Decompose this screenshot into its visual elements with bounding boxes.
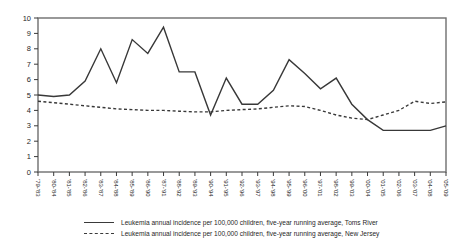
y-tick-label: 8 — [27, 44, 31, 53]
x-axis: '79-'83'80-'84'81-'85'82-'86'83-'87'84-'… — [35, 172, 449, 197]
x-tick-label: '88-'92 — [176, 179, 182, 197]
y-tick-label: 4 — [27, 106, 31, 115]
y-axis: 012345678910 — [23, 14, 38, 177]
legend-item-toms-river: Leukemia annual incidence per 100,000 ch… — [84, 218, 379, 227]
x-tick-label: '92-'96 — [239, 179, 245, 197]
series-toms-river — [38, 27, 446, 130]
legend-label-new-jersey: Leukemia annual incidence per 100,000 ch… — [121, 229, 379, 238]
y-tick-label: 10 — [23, 14, 31, 23]
x-tick-label: '05-'09 — [443, 179, 449, 197]
x-tick-label: '99-'03 — [349, 179, 355, 197]
x-tick-label: '95-'99 — [286, 179, 292, 197]
y-tick-label: 5 — [27, 91, 31, 100]
dashed-line-icon — [84, 233, 114, 234]
x-tick-label: '81-'85 — [66, 179, 72, 197]
x-tick-label: '97-'01 — [317, 179, 323, 197]
y-tick-label: 6 — [27, 75, 31, 84]
plot-frame — [38, 18, 446, 172]
legend-item-new-jersey: Leukemia annual incidence per 100,000 ch… — [84, 229, 379, 238]
x-tick-label: '85-'89 — [129, 179, 135, 197]
leukemia-incidence-figure: 012345678910'79-'83'80-'84'81-'85'82-'86… — [0, 0, 471, 244]
x-tick-label: '82-'86 — [82, 179, 88, 197]
x-tick-label: '84-'88 — [113, 179, 119, 197]
x-tick-label: '86-'90 — [145, 179, 151, 197]
y-tick-label: 1 — [27, 152, 31, 161]
x-tick-label: '98-'02 — [333, 179, 339, 197]
x-tick-label: '83-'87 — [98, 179, 104, 197]
y-tick-label: 7 — [27, 60, 31, 69]
y-tick-label: 9 — [27, 29, 31, 38]
x-tick-label: '01-'05 — [380, 179, 386, 197]
x-tick-label: '91-'95 — [223, 179, 229, 197]
y-tick-label: 3 — [27, 121, 31, 130]
x-tick-label: '04-'08 — [427, 179, 433, 197]
x-tick-label: '89-'93 — [192, 179, 198, 197]
x-tick-label: '94-'98 — [270, 179, 276, 197]
chart-legend: Leukemia annual incidence per 100,000 ch… — [84, 218, 379, 238]
legend-label-toms-river: Leukemia annual incidence per 100,000 ch… — [121, 218, 378, 227]
x-tick-label: '03-'07 — [412, 179, 418, 197]
x-tick-label: '02-'06 — [396, 179, 402, 197]
solid-line-icon — [84, 222, 114, 223]
x-tick-label: '80-'84 — [51, 179, 57, 197]
y-tick-label: 0 — [27, 168, 31, 177]
x-tick-label: '00-'04 — [365, 179, 371, 197]
x-tick-label: '90-'94 — [208, 179, 214, 197]
x-tick-label: '96-'00 — [302, 179, 308, 197]
y-tick-label: 2 — [27, 137, 31, 146]
leukemia-incidence-chart: 012345678910'79-'83'80-'84'81-'85'82-'86… — [0, 0, 471, 216]
x-tick-label: '87-'91 — [161, 179, 167, 197]
x-tick-label: '79-'83 — [35, 179, 41, 197]
x-tick-label: '93-'97 — [255, 179, 261, 197]
